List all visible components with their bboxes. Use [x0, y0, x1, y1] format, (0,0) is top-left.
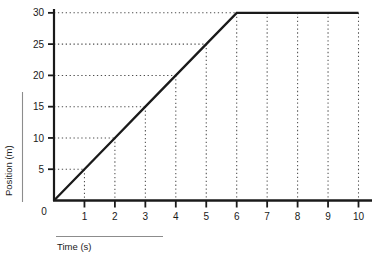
y-axis-title: Position (m): [3, 145, 14, 196]
y-axis-tick-label: 5: [38, 164, 44, 175]
x-axis-tick-label: 5: [203, 211, 209, 222]
position-time-chart: 51015202530 12345678910 0 Position (m) T…: [0, 0, 375, 256]
chart-svg: 51015202530 12345678910 0 Position (m) T…: [0, 0, 375, 256]
y-axis-tick-label: 15: [33, 101, 45, 112]
x-axis-title: Time (s): [57, 241, 91, 252]
origin-label: 0: [41, 206, 47, 217]
y-axis-tick-label: 30: [33, 7, 45, 18]
y-axis-tick-label: 10: [33, 133, 45, 144]
chart-background: [0, 0, 375, 256]
x-axis-tick-label: 8: [295, 211, 301, 222]
x-axis-tick-label: 9: [325, 211, 331, 222]
y-axis-tick-label: 25: [33, 39, 45, 50]
x-axis-tick-label: 1: [82, 211, 88, 222]
x-axis-tick-label: 3: [143, 211, 149, 222]
x-axis-tick-label: 7: [264, 211, 270, 222]
x-axis-tick-label: 6: [234, 211, 240, 222]
y-axis-tick-label: 20: [33, 70, 45, 81]
x-axis-tick-label: 10: [353, 211, 365, 222]
x-axis-tick-label: 2: [112, 211, 118, 222]
x-axis-tick-label: 4: [173, 211, 179, 222]
